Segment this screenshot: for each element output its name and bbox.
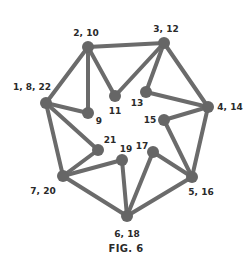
node-n13 <box>140 86 152 98</box>
node-label-n1_8_22: 1, 8, 22 <box>13 82 51 92</box>
edge-n11-n3_12 <box>115 43 164 96</box>
node-label-n2_10: 2, 10 <box>73 28 98 38</box>
node-n5_16 <box>186 171 198 183</box>
node-n7_20 <box>57 170 69 182</box>
node-n11 <box>109 90 121 102</box>
node-n19 <box>116 154 128 166</box>
node-label-n15: 15 <box>144 115 157 125</box>
edge-n2_10-n3_12 <box>88 43 164 47</box>
node-label-n17: 17 <box>136 141 149 151</box>
edge-n4_14-n5_16 <box>192 107 208 177</box>
node-label-n5_16: 5, 16 <box>188 187 213 197</box>
node-label-n21: 21 <box>104 135 117 145</box>
node-n21 <box>92 144 104 156</box>
edge-n2_10-n1_8_22 <box>46 47 88 103</box>
graph-diagram: 2, 103, 121, 8, 22911134, 14152119177, 2… <box>0 0 252 267</box>
node-n15 <box>158 114 170 126</box>
node-n3_12 <box>158 37 170 49</box>
node-n9 <box>82 107 94 119</box>
node-label-n4_14: 4, 14 <box>217 102 242 112</box>
node-n17 <box>147 146 159 158</box>
node-n4_14 <box>202 101 214 113</box>
node-n6_18 <box>121 210 133 222</box>
node-label-n7_20: 7, 20 <box>30 186 55 196</box>
node-label-n6_18: 6, 18 <box>114 229 139 239</box>
node-label-n9: 9 <box>96 116 102 126</box>
edge-n2_10-n11 <box>88 47 115 96</box>
edge-layer <box>46 43 208 216</box>
figure-caption: FIG. 6 <box>0 243 252 254</box>
edge-n19-n6_18 <box>122 160 127 216</box>
node-label-n11: 11 <box>109 106 122 116</box>
node-label-n3_12: 3, 12 <box>153 24 178 34</box>
edge-n4_14-n15 <box>164 107 208 120</box>
node-n2_10 <box>82 41 94 53</box>
node-label-n13: 13 <box>131 98 144 108</box>
edge-n7_20-n6_18 <box>63 176 127 216</box>
node-n1_8_22 <box>40 97 52 109</box>
node-label-n19: 19 <box>120 144 133 154</box>
